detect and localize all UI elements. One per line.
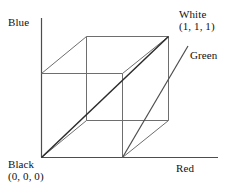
axis-label-green: Green: [190, 49, 217, 61]
black-to-white-diagonal: [42, 37, 169, 158]
axis-label-red: Red: [176, 162, 194, 174]
vertex-label-white: White: [179, 8, 206, 20]
green-axis-line: [123, 46, 189, 158]
cube-depth-edge-top-left: [42, 37, 87, 74]
rgb-color-cube-figure: Blue White (1, 1, 1) Green Black (0, 0, …: [0, 0, 230, 196]
cube-depth-edge-bottom-right: [123, 121, 169, 158]
axis-label-blue: Blue: [8, 16, 29, 28]
vertex-label-white-coords: (1, 1, 1): [179, 20, 215, 32]
vertex-label-black-coords: (0, 0, 0): [8, 170, 44, 182]
vertex-label-black: Black: [8, 158, 34, 170]
